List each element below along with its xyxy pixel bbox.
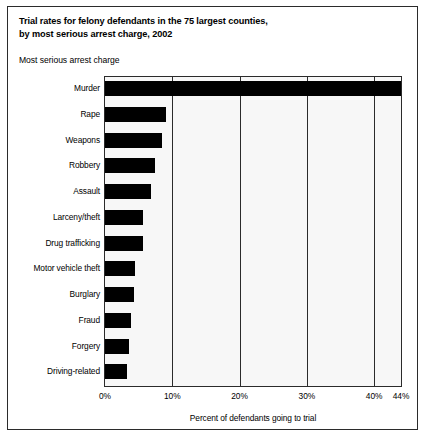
bar-row: Drug trafficking [105, 232, 401, 256]
y-axis-tick-label: Larceny/theft [53, 210, 100, 225]
y-axis-tick-label: Burglary [70, 287, 100, 302]
bar-larceny-theft [105, 210, 143, 225]
x-axis-tick-label: 20% [231, 391, 247, 401]
bar-murder [105, 81, 401, 96]
bar-row: Weapons [105, 129, 401, 153]
bar-motor-vehicle-theft [105, 261, 135, 276]
x-axis-label: Percent of defendants going to trial [105, 413, 401, 423]
y-axis-tick-label: Weapons [65, 133, 100, 148]
x-axis-tick-label: 0% [99, 391, 111, 401]
y-axis-tick-label: Motor vehicle theft [33, 261, 100, 276]
bar-row: Robbery [105, 154, 401, 178]
bar-row: Fraud [105, 309, 401, 333]
bar-row: Rape [105, 103, 401, 127]
chart-title-line-2: by most serious arrest charge, 2002 [19, 28, 399, 41]
bar-burglary [105, 287, 134, 302]
y-axis-tick-label: Assault [73, 184, 100, 199]
bar-row: Driving-related [105, 360, 401, 384]
bar-row: Burglary [105, 283, 401, 307]
x-axis-tick-label: 10% [164, 391, 180, 401]
x-axis-tick-label: 30% [299, 391, 315, 401]
y-axis-tick-label: Driving-related [47, 364, 100, 379]
x-axis-tick-label: 40% [366, 391, 382, 401]
bar-row: Larceny/theft [105, 206, 401, 230]
bar-forgery [105, 339, 129, 354]
bar-fraud [105, 313, 131, 328]
x-axis-tick-label: 44% [393, 391, 409, 401]
bar-rape [105, 107, 166, 122]
bar-robbery [105, 158, 155, 173]
y-axis-tick-label: Robbery [69, 158, 100, 173]
bar-row: Assault [105, 180, 401, 204]
y-axis-tick-label: Murder [74, 81, 100, 96]
bar-row: Murder [105, 77, 401, 101]
plot-area: Percent of defendants going to trial Mur… [104, 76, 402, 387]
chart-title: Trial rates for felony defendants in the… [19, 15, 399, 41]
bar-row: Motor vehicle theft [105, 257, 401, 281]
y-axis-tick-label: Drug trafficking [45, 236, 100, 251]
bar-driving-related [105, 364, 127, 379]
chart-figure: Trial rates for felony defendants in the… [7, 6, 418, 430]
y-axis-tick-label: Rape [80, 107, 100, 122]
y-axis-tick-label: Forgery [72, 339, 100, 354]
chart-title-line-1: Trial rates for felony defendants in the… [19, 15, 399, 28]
y-axis-tick-label: Fraud [79, 313, 100, 328]
bar-drug-trafficking [105, 236, 143, 251]
bar-row: Forgery [105, 335, 401, 359]
bar-weapons [105, 133, 162, 148]
y-axis-heading: Most serious arrest charge [19, 55, 119, 65]
bar-assault [105, 184, 151, 199]
